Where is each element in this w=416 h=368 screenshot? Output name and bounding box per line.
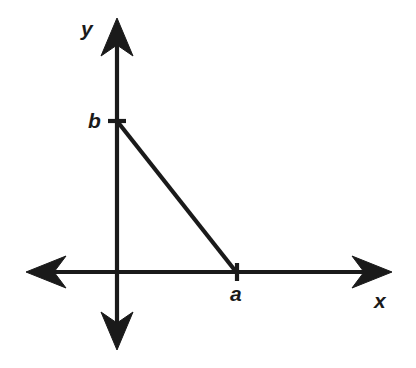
y-axis-label: y: [81, 18, 93, 39]
x-axis-label: x: [374, 290, 386, 311]
x-intercept-label-a: a: [230, 283, 242, 304]
hypotenuse-segment: [117, 121, 237, 273]
figure-root: y x b a: [0, 0, 416, 368]
coordinate-plane-diagram: [0, 0, 416, 368]
y-intercept-label-b: b: [88, 110, 101, 131]
